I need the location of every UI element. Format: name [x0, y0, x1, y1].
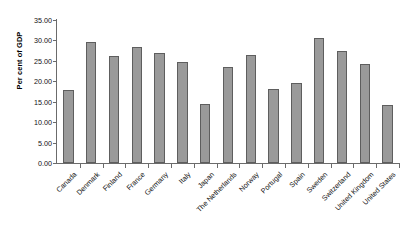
x-axis-tick-mark	[103, 164, 104, 168]
y-axis-tick-mark	[53, 81, 57, 82]
x-axis-tick-mark	[217, 164, 218, 168]
bar	[200, 104, 210, 163]
y-axis-tick-mark	[53, 40, 57, 41]
plot-area	[57, 20, 399, 163]
y-axis-tick-label: 30.00	[34, 36, 52, 45]
bar	[246, 55, 256, 163]
y-axis-tick-mark	[53, 163, 57, 164]
bar	[86, 42, 96, 163]
x-axis-tick-mark	[262, 164, 263, 168]
x-axis-tick-mark	[308, 164, 309, 168]
x-axis-tick-mark	[331, 164, 332, 168]
x-axis-tick-mark	[80, 164, 81, 168]
x-axis-tick-label: Portugal	[259, 170, 284, 195]
bar	[360, 64, 370, 163]
x-axis-tick-mark	[353, 164, 354, 168]
x-axis-tick-mark	[171, 164, 172, 168]
bar	[177, 62, 187, 163]
x-axis-tick-mark	[285, 164, 286, 168]
y-axis-tick-label: 25.00	[34, 56, 52, 65]
bar	[132, 47, 142, 163]
x-axis-tick-label: Denmark	[75, 170, 102, 197]
bar-chart: Per cent of GDP 35.0030.0025.0020.0015.0…	[0, 0, 411, 237]
y-axis-tick-label: 15.00	[34, 97, 52, 106]
x-axis-line	[56, 163, 400, 164]
x-axis-tick-label: The Netherlands	[194, 170, 238, 214]
y-axis-tick-mark	[53, 143, 57, 144]
x-axis-tick-label: Italy	[177, 170, 193, 186]
y-axis-tick-mark	[53, 122, 57, 123]
x-axis-tick-mark	[239, 164, 240, 168]
bar	[154, 53, 164, 163]
y-axis-tick-mark	[53, 61, 57, 62]
y-axis-tick-labels: 35.0030.0025.0020.0015.0010.005.000.00	[0, 20, 52, 163]
bar	[223, 67, 233, 163]
bar	[63, 90, 73, 163]
bar	[382, 105, 392, 163]
y-axis-tick-label: 35.00	[34, 16, 52, 25]
y-axis-tick-label: 20.00	[34, 77, 52, 86]
x-axis-tick-label: Germany	[143, 170, 170, 197]
x-axis-tick-label: Finland	[101, 170, 124, 193]
x-axis-tick-mark	[376, 164, 377, 168]
x-axis-tick-mark	[125, 164, 126, 168]
y-axis-tick-label: 5.00	[38, 138, 52, 147]
x-axis-tick-mark	[148, 164, 149, 168]
x-axis-tick-mark	[399, 164, 400, 168]
y-axis-tick-label: 0.00	[38, 159, 52, 168]
y-axis-tick-mark	[53, 20, 57, 21]
x-axis-tick-mark	[194, 164, 195, 168]
bar	[268, 89, 278, 163]
bar	[337, 51, 347, 163]
x-axis-tick-label: Japan	[195, 170, 215, 190]
bar	[291, 83, 301, 163]
bar	[109, 56, 119, 163]
y-axis-tick-mark	[53, 102, 57, 103]
x-axis-tick-label: Spain	[287, 170, 306, 189]
bar	[314, 38, 324, 163]
x-axis-tick-label: Norway	[238, 170, 262, 194]
y-axis-tick-label: 10.00	[34, 118, 52, 127]
